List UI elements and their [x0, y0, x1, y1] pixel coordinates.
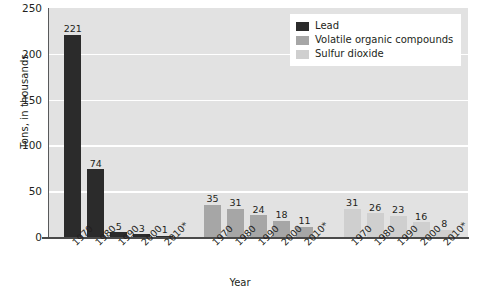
bar-value-label: 74: [90, 159, 102, 169]
y-axis-tick-label: 150: [10, 94, 42, 106]
bar-value-label: 24: [252, 205, 264, 215]
bar-value-label: 16: [415, 212, 427, 222]
x-axis-title: Year: [0, 277, 480, 288]
bar-value-label: 31: [229, 198, 241, 208]
legend-swatch: [296, 50, 309, 59]
legend-swatch: [296, 22, 309, 31]
legend-item: Volatile organic compounds: [296, 33, 453, 47]
legend-label: Volatile organic compounds: [315, 35, 453, 45]
bar-value-label: 31: [346, 198, 358, 208]
gridline: [49, 191, 468, 193]
bar-value-label: 18: [275, 210, 287, 220]
bar-value-label: 23: [392, 205, 404, 215]
gridline: [49, 100, 468, 102]
y-axis-tick-label: 0: [10, 231, 42, 243]
legend-label: Lead: [315, 21, 339, 31]
bar-value-label: 26: [369, 203, 381, 213]
gridline: [49, 145, 468, 147]
bar-value-label: 8: [441, 219, 447, 229]
legend-item: Lead: [296, 19, 453, 33]
bar-value-label: 221: [64, 24, 82, 34]
legend-item: Sulfur dioxide: [296, 47, 453, 61]
bar: 221: [64, 35, 81, 237]
bar-value-label: 35: [206, 194, 218, 204]
y-axis-tick-label: 200: [10, 48, 42, 60]
legend: LeadVolatile organic compoundsSulfur dio…: [290, 14, 461, 66]
legend-label: Sulfur dioxide: [315, 49, 384, 59]
y-axis-tick-label: 100: [10, 139, 42, 151]
legend-swatch: [296, 36, 309, 45]
bar-chart: Tons, in thousands 050100150200250 22174…: [0, 0, 480, 300]
bar-value-label: 11: [298, 216, 310, 226]
y-axis-tick-label: 50: [10, 185, 42, 197]
y-axis-tick-label: 250: [10, 2, 42, 14]
